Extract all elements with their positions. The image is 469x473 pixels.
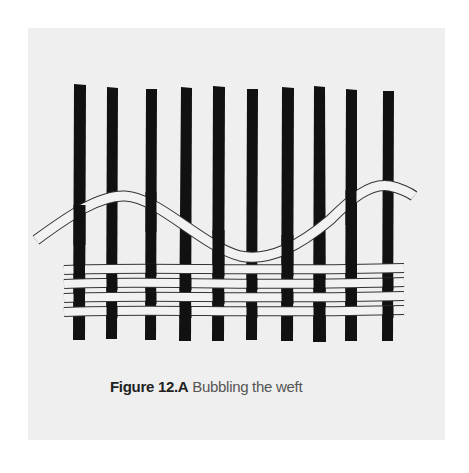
figure-label: Figure 12.A — [110, 378, 188, 395]
bubbled-weft — [36, 185, 414, 257]
weaving-diagram — [0, 0, 469, 473]
figure-title: Bubbling the weft — [192, 378, 302, 395]
